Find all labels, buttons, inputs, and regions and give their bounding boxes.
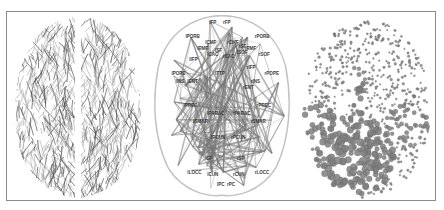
region-label: rSMAR	[251, 119, 267, 124]
nodes-image	[297, 12, 437, 200]
region-label: rPC	[227, 182, 236, 187]
region-label: lCMF	[205, 40, 216, 45]
region-label: lINS	[175, 79, 184, 84]
region-label: lLOCC	[187, 170, 202, 175]
tractography-panel	[7, 12, 147, 200]
region-label: rPARAC	[233, 111, 251, 116]
region-label: lENT	[187, 79, 198, 84]
region-label: lCAC	[207, 52, 219, 57]
tractography-image	[7, 12, 147, 200]
region-label: lPARAC	[207, 111, 225, 116]
region-label: rSF	[239, 44, 247, 49]
region-label: lIFP	[189, 57, 197, 62]
region-label: rPORB	[255, 34, 271, 39]
region-label: rENT	[243, 85, 254, 90]
region-label: rCMF	[227, 40, 239, 45]
connectome-image: lFPrFPlPORBrPORBlCMFrCMFlRMFrRMFlSFrSFlS…	[147, 12, 297, 200]
region-label: lTTP	[215, 71, 225, 76]
region-label: lPOPE	[172, 71, 186, 76]
region-label: rCAC	[223, 54, 235, 59]
region-label: lPREC	[183, 103, 198, 108]
region-label: rPREC	[257, 103, 272, 108]
region-label: rCUN	[233, 172, 245, 177]
region-label: rPOPE	[265, 71, 279, 76]
region-label: rLOCC	[255, 170, 270, 175]
region-label: lCUN	[207, 172, 218, 177]
region-label: lRMF	[197, 46, 208, 51]
connectome-panel: lFPrFPlPORBrPORBlCMFrCMFlRMFrRMFlSFrSFlS…	[147, 12, 297, 200]
region-label: rFP	[223, 20, 231, 25]
figure-frame: lFPrFPlPORBrPORBlCMFrCMFlRMFrRMFlSFrSFlS…	[6, 11, 436, 201]
region-label: rINS	[251, 79, 260, 84]
region-label: lPCUN	[211, 135, 225, 140]
region-label: lSP	[205, 156, 212, 161]
region-label: lPC	[217, 182, 225, 187]
region-label: lFP	[209, 20, 216, 25]
region-label: lPORB	[185, 34, 200, 39]
region-label: rIFP	[247, 65, 256, 70]
region-label: lSOF	[237, 50, 248, 55]
nodes-panel	[297, 12, 437, 200]
region-label: rPCUN	[231, 135, 246, 140]
region-label: lSMAR	[193, 119, 208, 124]
region-label: rSP	[237, 156, 245, 161]
region-label: rSOF	[259, 52, 270, 57]
